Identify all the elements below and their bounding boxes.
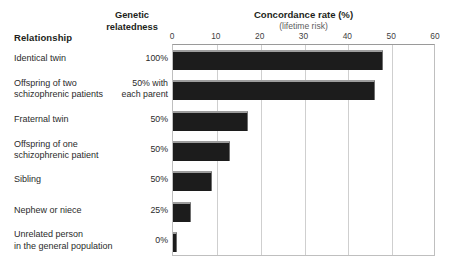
- bar: [173, 171, 212, 191]
- genetic-relatedness-value: 50%: [96, 174, 168, 186]
- x-tick-60: 60: [430, 31, 439, 41]
- column-header-genetic-relatedness: Genetic relatedness: [96, 10, 168, 33]
- bar: [173, 80, 375, 100]
- gridline-20: [261, 45, 262, 255]
- genetic-relatedness-value: 100%: [96, 53, 168, 65]
- genetic-relatedness-line1: 50%: [96, 174, 168, 186]
- chart-subtitle: (lifetime risk): [172, 21, 435, 31]
- genetic-relatedness-value: 25%: [96, 205, 168, 217]
- bar: [173, 111, 248, 131]
- bar: [173, 141, 230, 161]
- genetic-relatedness-line1: 50%: [96, 114, 168, 126]
- bar: [173, 50, 383, 70]
- x-tick-30: 30: [299, 31, 308, 41]
- x-tick-20: 20: [255, 31, 264, 41]
- genetic-relatedness-line1: 50% with: [96, 78, 168, 90]
- gridline-50: [392, 45, 393, 255]
- genetic-relatedness-value: 50% witheach parent: [96, 78, 168, 101]
- bar: [173, 202, 191, 222]
- schizophrenia-concordance-chart: Relationship Genetic relatedness Concord…: [0, 0, 462, 273]
- x-axis-tick-labels: 0102030405060: [172, 31, 435, 43]
- x-tick-0: 0: [170, 31, 175, 41]
- column-header-genetic-line1: Genetic: [96, 10, 168, 22]
- chart-title: Concordance rate (%): [172, 9, 435, 20]
- genetic-relatedness-line1: 50%: [96, 144, 168, 156]
- gridline-40: [348, 45, 349, 255]
- genetic-relatedness-value: 50%: [96, 144, 168, 156]
- x-tick-10: 10: [211, 31, 220, 41]
- gridline-30: [305, 45, 306, 255]
- bar: [173, 232, 177, 252]
- genetic-relatedness-line1: 100%: [96, 53, 168, 65]
- genetic-relatedness-value: 0%: [96, 235, 168, 247]
- genetic-relatedness-line1: 0%: [96, 235, 168, 247]
- x-tick-50: 50: [386, 31, 395, 41]
- plot-area: [172, 44, 435, 256]
- genetic-relatedness-value: 50%: [96, 114, 168, 126]
- column-header-relationship: Relationship: [14, 32, 72, 43]
- x-tick-40: 40: [343, 31, 352, 41]
- genetic-relatedness-line2: each parent: [96, 89, 168, 101]
- column-header-genetic-line2: relatedness: [96, 22, 168, 34]
- genetic-relatedness-line1: 25%: [96, 205, 168, 217]
